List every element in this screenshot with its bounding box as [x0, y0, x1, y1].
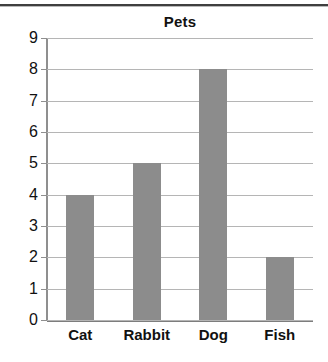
y-axis-tick-labels: 0123456789	[8, 0, 38, 362]
x-axis-label-fish: Fish	[247, 326, 314, 343]
y-axis-tick	[41, 69, 47, 70]
bar-rabbit	[133, 163, 161, 320]
y-axis-tick-label: 7	[12, 92, 38, 110]
y-axis-tick-label: 3	[12, 217, 38, 235]
y-axis-tick	[41, 257, 47, 258]
y-axis-tick	[41, 289, 47, 290]
x-axis-label-cat: Cat	[47, 326, 114, 343]
bar-cat	[66, 195, 94, 320]
y-axis-tick	[41, 101, 47, 102]
bar-dog	[199, 69, 227, 320]
gridline	[47, 101, 313, 102]
chart-title: Pets	[47, 13, 313, 30]
gridline	[47, 69, 313, 70]
y-axis-tick	[41, 38, 47, 39]
x-axis-label-rabbit: Rabbit	[114, 326, 181, 343]
top-border-rule-shadow	[0, 6, 328, 7]
y-axis-tick-label: 9	[12, 29, 38, 47]
bar-chart-figure: Pets 0123456789 CatRabbitDogFish	[0, 0, 328, 362]
gridline	[47, 38, 313, 39]
bar-fish	[266, 257, 294, 320]
y-axis-tick-label: 1	[12, 280, 38, 298]
gridline	[47, 163, 313, 164]
y-axis-tick-label: 2	[12, 248, 38, 266]
gridline	[47, 132, 313, 133]
y-axis-tick-label: 6	[12, 123, 38, 141]
y-axis-tick-label: 0	[12, 311, 38, 329]
y-axis-tick-label: 8	[12, 60, 38, 78]
y-axis-tick-label: 5	[12, 154, 38, 172]
y-axis-tick	[41, 132, 47, 133]
y-axis-tick	[41, 226, 47, 227]
gridline	[47, 320, 313, 321]
x-axis-label-dog: Dog	[180, 326, 247, 343]
y-axis-tick	[41, 163, 47, 164]
plot-area	[47, 38, 313, 320]
y-axis-tick	[41, 195, 47, 196]
y-axis-tick-label: 4	[12, 186, 38, 204]
y-axis-tick	[41, 320, 47, 321]
